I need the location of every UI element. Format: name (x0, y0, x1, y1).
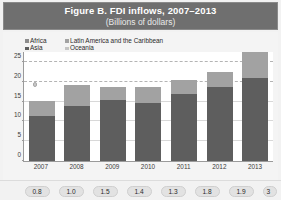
bar-segment[interactable] (171, 94, 197, 161)
y-axis-tick-label: 5 (17, 131, 21, 138)
bar-segment[interactable] (171, 80, 197, 94)
legend-swatch-icon (25, 39, 29, 43)
bar-segment[interactable] (100, 100, 126, 161)
marker-dot-icon (33, 82, 38, 87)
bar-segment[interactable] (29, 101, 55, 116)
bar-segment[interactable] (29, 116, 55, 161)
figure-header-band: Figure B. FDI inflows, 2007–2013 (Billio… (3, 2, 278, 30)
badge-track: 0.81.01.51.41.31.81.93 (20, 186, 281, 197)
bar-group[interactable] (135, 52, 161, 161)
value-badge: 1.5 (93, 186, 118, 197)
x-axis-tick-label: 2007 (28, 163, 54, 170)
bar-group[interactable] (171, 52, 197, 161)
value-badge: 1.8 (195, 186, 220, 197)
value-badge: 0.8 (25, 186, 50, 197)
x-axis-tick-label: 2011 (171, 163, 197, 170)
bar-segment[interactable] (207, 87, 233, 161)
x-axis-tick-label: 2008 (64, 163, 90, 170)
bar-group[interactable] (64, 52, 90, 161)
x-axis-labels: 2007200820092010201120122013 (23, 163, 273, 170)
chart-panel: AfricaLatin America and the CaribbeanAsi… (3, 32, 278, 180)
value-badge: 1.9 (229, 186, 254, 197)
value-badge-partial: 3 (263, 186, 277, 197)
plot-area: 0510152025 (23, 52, 273, 162)
bar-group[interactable] (29, 52, 55, 161)
bar-group[interactable] (100, 52, 126, 161)
value-badge: 1.0 (59, 186, 84, 197)
chart-legend: AfricaLatin America and the CaribbeanAsi… (25, 38, 215, 52)
bar-segment[interactable] (242, 52, 268, 78)
value-badge: 1.3 (161, 186, 186, 197)
bar-segment[interactable] (64, 106, 90, 161)
bar-segment[interactable] (135, 103, 161, 161)
x-axis-tick-label: 2012 (206, 163, 232, 170)
legend-item-label: Oceania (70, 45, 94, 51)
y-axis-tick-label: 10 (14, 111, 21, 118)
figure-subtitle: (Billions of dollars) (106, 18, 175, 27)
bars-layer (24, 52, 273, 161)
x-axis-tick-label: 2010 (135, 163, 161, 170)
bar-group[interactable] (242, 52, 268, 161)
legend-item[interactable]: Oceania (65, 45, 215, 51)
x-axis-tick-label: 2009 (99, 163, 125, 170)
bar-segment[interactable] (100, 87, 126, 100)
bar-segment[interactable] (64, 85, 90, 106)
badge-row: 0.81.01.51.41.31.81.93 (0, 182, 281, 200)
bar-segment[interactable] (207, 72, 233, 87)
legend-item-label: Asia (30, 45, 42, 51)
y-axis-tick-label: 15 (14, 91, 21, 98)
legend-swatch-icon (65, 39, 69, 43)
y-axis-tick-label: 25 (14, 51, 21, 58)
figure-title: Figure B. FDI inflows, 2007–2013 (64, 6, 216, 16)
value-badge: 1.4 (127, 186, 152, 197)
badge-separator (0, 180, 281, 181)
x-axis-tick-label: 2013 (242, 163, 268, 170)
legend-item[interactable]: Asia (25, 45, 65, 51)
y-axis-tick-label: 0 (17, 151, 21, 158)
bar-group[interactable] (207, 52, 233, 161)
legend-swatch-icon (25, 47, 29, 51)
figure-container: Figure B. FDI inflows, 2007–2013 (Billio… (0, 0, 281, 200)
legend-swatch-icon (65, 47, 69, 51)
y-axis-tick-label: 20 (14, 71, 21, 78)
bar-segment[interactable] (242, 78, 268, 161)
bar-segment[interactable] (135, 87, 161, 103)
